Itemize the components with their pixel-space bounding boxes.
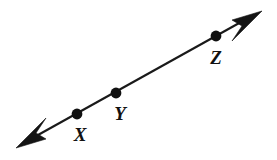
point-label-y: Y <box>114 103 128 124</box>
upper-right-arrowhead <box>232 11 262 41</box>
point-dot-x <box>72 109 83 120</box>
point-dot-y <box>111 88 122 99</box>
geometry-figure: X Y Z <box>0 0 277 160</box>
point-label-x: X <box>73 124 88 145</box>
geometry-diagram-svg: X Y Z <box>0 0 277 160</box>
point-dot-z <box>211 31 222 42</box>
point-label-z: Z <box>209 47 222 68</box>
